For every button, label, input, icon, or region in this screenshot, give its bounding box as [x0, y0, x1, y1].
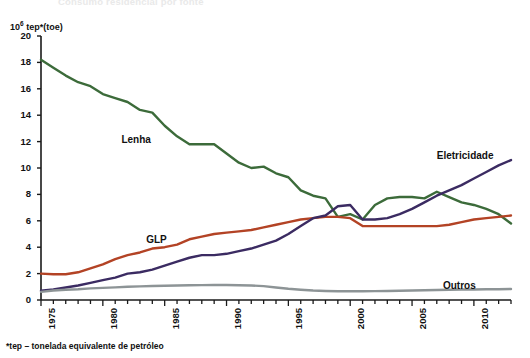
- chart-footnote: *tep – tonelada equivalente de petróleo: [6, 341, 164, 351]
- series-line-outros: [41, 285, 511, 292]
- y-tick-label: 14: [9, 109, 31, 120]
- plot-canvas: [0, 0, 530, 358]
- x-tick-label: 2000: [355, 308, 366, 329]
- x-tick-label: 1980: [108, 308, 119, 329]
- y-tick-label: 0: [9, 294, 31, 305]
- series-line-glp: [41, 216, 511, 275]
- series-label-lenha: Lenha: [121, 134, 150, 145]
- series-label-outros: Outros: [443, 280, 476, 291]
- x-tick-label: 1985: [170, 308, 181, 329]
- x-tick-label: 2005: [417, 308, 428, 329]
- x-tick-label: 1990: [232, 308, 243, 329]
- y-tick-label: 6: [9, 215, 31, 226]
- series-line-lenha: [41, 60, 511, 224]
- y-tick-label: 12: [9, 136, 31, 147]
- y-tick-label: 10: [9, 162, 31, 173]
- y-tick-label: 18: [9, 56, 31, 67]
- series-label-eletricidade: Eletricidade: [437, 150, 494, 161]
- y-tick-label: 16: [9, 83, 31, 94]
- x-tick-label: 2010: [479, 308, 490, 329]
- series-label-glp: GLP: [146, 234, 167, 245]
- y-tick-label: 2: [9, 268, 31, 279]
- x-tick-label: 1995: [293, 308, 304, 329]
- chart-figure: Consumo residencial por fonte 106 tep*(t…: [0, 0, 530, 358]
- y-tick-label: 20: [9, 30, 31, 41]
- x-tick-label: 1975: [46, 308, 57, 329]
- y-tick-label: 8: [9, 188, 31, 199]
- y-tick-label: 4: [9, 241, 31, 252]
